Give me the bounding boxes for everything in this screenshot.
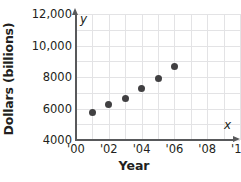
y-tick-label: 8000 [20, 71, 72, 83]
gridline-vertical [191, 14, 192, 140]
gridline-vertical [92, 14, 93, 140]
gridline-vertical [207, 14, 208, 140]
x-tick-label: '10 [225, 142, 241, 156]
data-point [89, 109, 96, 116]
gridline-vertical [142, 14, 143, 140]
y-tick-label: 12,000 [20, 8, 72, 20]
scatter-plot-figure: Dollars (billions) Year 12,00010,0008000… [0, 0, 241, 182]
x-axis-variable-label: x [224, 118, 231, 132]
y-axis-line [75, 14, 77, 140]
x-tick-label: '04 [127, 142, 157, 156]
x-axis-title: Year [76, 158, 192, 173]
y-tick-label: 10,000 [20, 40, 72, 52]
y-axis-variable-label: y [80, 12, 87, 26]
y-axis-title: Dollars (billions) [0, 8, 18, 150]
data-point [122, 95, 129, 102]
x-tick-label: '08 [192, 142, 222, 156]
gridline-vertical [240, 14, 241, 140]
data-point [171, 63, 178, 70]
x-tick-label: '00 [61, 142, 91, 156]
gridline-vertical [125, 14, 126, 140]
plot-area [76, 14, 240, 140]
x-tick-label: '06 [159, 142, 189, 156]
y-axis-arrowhead [72, 8, 78, 15]
gridline-vertical [174, 14, 175, 140]
data-point [155, 75, 162, 82]
y-tick-label: 6000 [20, 103, 72, 115]
data-point [105, 101, 112, 108]
gridline-vertical [109, 14, 110, 140]
x-axis-line [75, 139, 234, 141]
x-tick-label: '02 [94, 142, 124, 156]
data-point [138, 85, 145, 92]
